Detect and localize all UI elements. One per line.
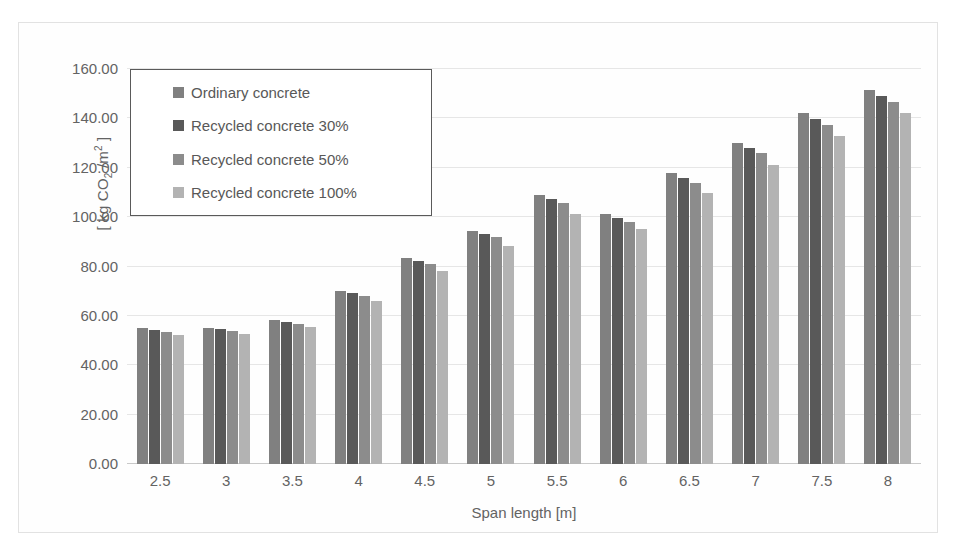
x-axis-tick-label: 7 <box>723 472 789 489</box>
bar <box>239 334 250 464</box>
bar <box>371 301 382 464</box>
x-axis-tick-label: 5.5 <box>524 472 590 489</box>
bar <box>636 229 647 464</box>
legend-item[interactable]: Ordinary concrete <box>131 84 431 101</box>
bar <box>690 183 701 464</box>
bar <box>149 330 160 464</box>
bar <box>137 328 148 464</box>
bar <box>888 102 899 464</box>
bar-group <box>458 69 524 464</box>
y-axis-tick-label: 160.00 <box>72 60 118 77</box>
bar <box>600 214 611 464</box>
bar <box>503 246 514 464</box>
bar <box>756 153 767 464</box>
bar <box>347 293 358 464</box>
bar <box>876 96 887 464</box>
legend-swatch-icon <box>173 154 184 165</box>
y-axis-title-superscript: 2 <box>93 145 104 151</box>
bar <box>425 264 436 464</box>
bar <box>305 327 316 464</box>
bar <box>335 291 346 464</box>
legend-swatch-icon <box>173 87 184 98</box>
legend-item[interactable]: Recycled concrete 50% <box>131 151 431 168</box>
chart-legend: Ordinary concreteRecycled concrete 30%Re… <box>130 69 432 216</box>
bar <box>293 324 304 464</box>
y-axis-tick-label: 20.00 <box>80 405 118 422</box>
bar <box>437 271 448 464</box>
bar <box>546 199 557 464</box>
x-axis-tick-label: 5 <box>458 472 524 489</box>
bar <box>834 136 845 464</box>
bar-group <box>855 69 921 464</box>
bar <box>413 261 424 464</box>
bar <box>479 234 490 464</box>
legend-label: Recycled concrete 30% <box>191 117 349 134</box>
legend-label: Recycled concrete 50% <box>191 151 349 168</box>
legend-swatch-icon <box>173 187 184 198</box>
legend-item[interactable]: Recycled concrete 100% <box>131 184 431 201</box>
bar <box>900 113 911 464</box>
bar-group <box>656 69 722 464</box>
legend-label: Ordinary concrete <box>191 84 310 101</box>
bar <box>269 320 280 464</box>
bar <box>467 231 478 464</box>
legend-label: Recycled concrete 100% <box>191 184 357 201</box>
bar <box>215 329 226 464</box>
chart-container: [ kg CO2 /m2 ] 0.0020.0040.0060.0080.001… <box>18 22 938 533</box>
y-axis-tick-label: 0.00 <box>89 455 118 472</box>
bar <box>810 119 821 464</box>
bar <box>359 296 370 464</box>
y-axis-tick-label: 140.00 <box>72 109 118 126</box>
y-axis-tick-label: 40.00 <box>80 356 118 373</box>
bar-group <box>524 69 590 464</box>
bar <box>570 214 581 464</box>
bar <box>798 113 809 464</box>
bar <box>227 331 238 464</box>
x-axis-tick-label: 8 <box>855 472 921 489</box>
legend-item[interactable]: Recycled concrete 30% <box>131 117 431 134</box>
bar <box>534 195 545 464</box>
bar <box>624 222 635 464</box>
bar <box>612 218 623 464</box>
bar <box>702 193 713 464</box>
bar <box>732 143 743 464</box>
bar <box>401 258 412 464</box>
bar <box>161 332 172 464</box>
x-axis-tick-label: 2.5 <box>127 472 193 489</box>
y-axis-tick-label: 60.00 <box>80 306 118 323</box>
bar <box>173 335 184 464</box>
x-axis-tick-label: 6 <box>590 472 656 489</box>
x-axis-tick-label: 3.5 <box>259 472 325 489</box>
bar <box>203 328 214 464</box>
bar <box>822 125 833 464</box>
bar-group <box>723 69 789 464</box>
bar-group <box>789 69 855 464</box>
bar <box>744 148 755 464</box>
bar <box>864 90 875 464</box>
x-axis-tick-label: 6.5 <box>656 472 722 489</box>
bar <box>491 237 502 464</box>
x-axis-title: Span length [m] <box>127 504 921 521</box>
x-axis-tick-label: 7.5 <box>789 472 855 489</box>
bar <box>768 165 779 464</box>
bar <box>666 173 677 464</box>
x-axis-tick-label: 4.5 <box>392 472 458 489</box>
y-axis-tick-label: 100.00 <box>72 208 118 225</box>
bar <box>678 178 689 464</box>
y-axis-tick-label: 120.00 <box>72 158 118 175</box>
bar <box>558 203 569 464</box>
x-axis-tick-label: 3 <box>193 472 259 489</box>
x-axis-tick-labels: 2.533.544.555.566.577.58 <box>127 472 921 489</box>
bar <box>281 322 292 464</box>
legend-swatch-icon <box>173 120 184 131</box>
y-axis-tick-label: 80.00 <box>80 257 118 274</box>
x-axis-tick-label: 4 <box>326 472 392 489</box>
bar-group <box>590 69 656 464</box>
